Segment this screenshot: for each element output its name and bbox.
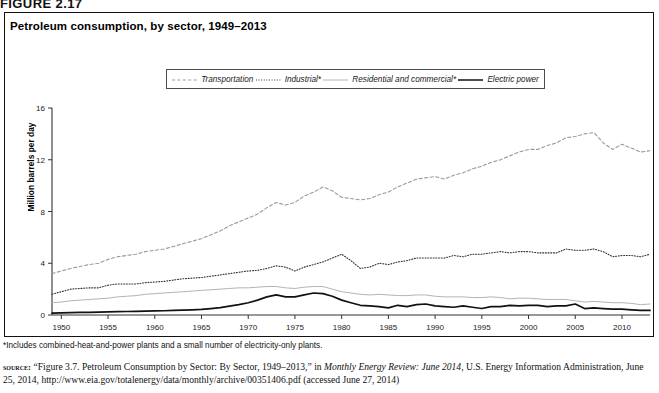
source-italic-title: Monthly Energy Review: June 2014 bbox=[324, 361, 461, 372]
svg-text:1965: 1965 bbox=[193, 323, 211, 332]
svg-text:1975: 1975 bbox=[286, 323, 304, 332]
svg-text:2005: 2005 bbox=[566, 323, 584, 332]
source-part1: “Figure 3.7. Petroleum Consumption by Se… bbox=[31, 361, 324, 372]
series-line-electric-power bbox=[52, 293, 650, 313]
svg-text:1960: 1960 bbox=[146, 323, 164, 332]
svg-text:1955: 1955 bbox=[99, 323, 117, 332]
svg-text:16: 16 bbox=[36, 104, 45, 113]
svg-text:1970: 1970 bbox=[239, 323, 257, 332]
svg-text:0: 0 bbox=[41, 311, 46, 320]
svg-text:2010: 2010 bbox=[613, 323, 631, 332]
x-axis-ticks: 1950195519601965197019751980198519901995… bbox=[52, 315, 631, 332]
svg-text:12: 12 bbox=[36, 156, 45, 165]
plot-area: Million barrels per day 0481216195019551… bbox=[4, 12, 654, 337]
footnote: *Includes combined-heat-and-power plants… bbox=[3, 341, 653, 350]
svg-text:1980: 1980 bbox=[333, 323, 351, 332]
series-line-transportation bbox=[52, 133, 650, 274]
source-note: source: “Figure 3.7. Petroleum Consumpti… bbox=[3, 361, 655, 385]
svg-text:1985: 1985 bbox=[379, 323, 397, 332]
series-line-industrial bbox=[52, 249, 650, 294]
svg-text:1995: 1995 bbox=[473, 323, 491, 332]
svg-text:1950: 1950 bbox=[52, 323, 70, 332]
svg-text:4: 4 bbox=[41, 259, 46, 268]
svg-text:2000: 2000 bbox=[520, 323, 538, 332]
svg-text:8: 8 bbox=[41, 208, 46, 217]
y-axis-ticks: 0481216 bbox=[36, 104, 52, 320]
figure-label: FIGURE 2.17 bbox=[0, 0, 82, 11]
line-chart-svg: 0481216195019551960196519701975198019851… bbox=[4, 12, 654, 337]
svg-text:1990: 1990 bbox=[426, 323, 444, 332]
axes bbox=[52, 108, 650, 315]
source-kicker: source: bbox=[3, 362, 31, 372]
